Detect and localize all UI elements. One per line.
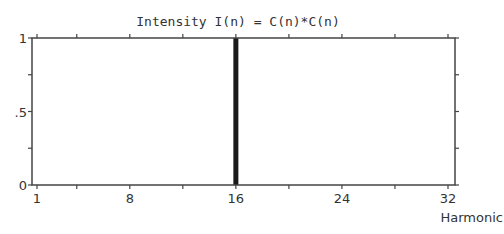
y-tick-label: 1 — [19, 31, 27, 46]
intensity-chart: Intensity I(n) = C(n)*C(n) 181624320.51 … — [0, 0, 504, 234]
x-axis-label: Harmonic — [441, 210, 503, 225]
x-tick-label: 24 — [334, 191, 351, 206]
x-tick-label: 32 — [440, 191, 457, 206]
y-tick-label: 0 — [19, 178, 27, 193]
x-tick-label: 8 — [126, 191, 134, 206]
x-tick-label: 1 — [33, 191, 41, 206]
plot-area: 181624320.51 — [15, 31, 459, 206]
chart-title: Intensity I(n) = C(n)*C(n) — [136, 14, 340, 29]
plot-frame — [32, 38, 455, 185]
y-tick-label: .5 — [15, 105, 27, 120]
bar — [233, 38, 238, 185]
x-tick-label: 16 — [228, 191, 245, 206]
